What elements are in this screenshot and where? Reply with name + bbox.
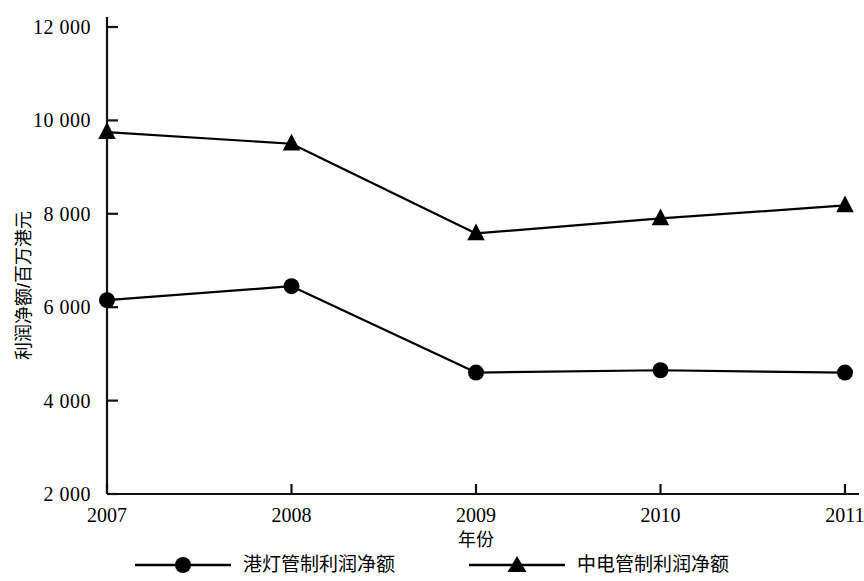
chart-legend: 港灯管制利润净额中电管制利润净额: [0, 548, 864, 581]
marker-circle-2008: [284, 278, 300, 294]
legend-label-1: 港灯管制利润净额: [243, 555, 395, 574]
line-chart-plot: [0, 0, 864, 581]
x-tick-label-2011: 2011: [795, 505, 864, 525]
chart-axes: [107, 17, 859, 494]
y-tick-label-2000: 2 000: [0, 484, 91, 504]
chart-figure: 2 0004 0006 0008 00010 00012 000 2007200…: [0, 0, 864, 581]
x-tick-label-2007: 2007: [57, 505, 157, 525]
marker-triangle-2010: [652, 208, 669, 225]
series-line-1: [107, 286, 845, 372]
marker-triangle-2008: [283, 134, 300, 151]
marker-circle-2011: [837, 365, 853, 381]
y-axis-title: 利润净额/百万港元: [15, 160, 33, 360]
marker-circle-2010: [653, 362, 669, 378]
legend-label-2: 中电管制利润净额: [577, 555, 729, 574]
legend-entry-1[interactable]: 港灯管制利润净额: [135, 555, 395, 575]
x-axis-title: 年份: [416, 531, 536, 549]
marker-triangle-2011: [836, 195, 853, 212]
y-tick-label-4000: 4 000: [0, 391, 91, 411]
y-tick-label-12000: 12 000: [0, 17, 91, 37]
x-tick-label-2010: 2010: [611, 505, 711, 525]
x-tick-label-2008: 2008: [242, 505, 342, 525]
x-tick-label-2009: 2009: [426, 505, 526, 525]
series-line-2: [107, 132, 845, 233]
y-tick-label-10000: 10 000: [0, 110, 91, 130]
marker-circle-2009: [468, 365, 484, 381]
legend-entry-2[interactable]: 中电管制利润净额: [469, 555, 729, 575]
legend-circle-icon: [175, 557, 191, 573]
marker-triangle-2007: [98, 122, 115, 139]
legend-marker-triangle: [469, 555, 565, 575]
marker-circle-2007: [99, 292, 115, 308]
legend-marker-circle: [135, 555, 231, 575]
chart-series: [98, 122, 853, 380]
